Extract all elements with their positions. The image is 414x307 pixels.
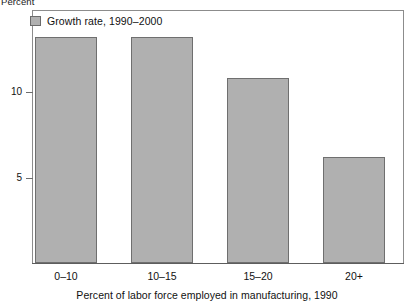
bar-20-plus[interactable]	[323, 157, 385, 263]
x-axis-tick-label-15-20: 15–20	[227, 270, 289, 282]
x-axis-title: Percent of labor force employed in manuf…	[0, 289, 414, 301]
x-axis-tick-label-10-15: 10–15	[131, 270, 193, 282]
x-axis-tick-label-20-plus: 20+	[323, 270, 385, 282]
bar-15-20[interactable]	[227, 78, 289, 263]
x-axis-baseline	[32, 263, 404, 264]
y-axis-unit-label: Percent	[1, 0, 34, 7]
bar-chart-figure: Percent Growth rate, 1990–2000 10 5 0–10…	[0, 0, 414, 307]
chart-legend: Growth rate, 1990–2000	[30, 15, 162, 27]
bar-10-15[interactable]	[131, 37, 193, 263]
y-axis-tick-label-10: 10	[11, 86, 22, 97]
y-axis-tick-10	[26, 92, 33, 93]
bar-0-10[interactable]	[35, 37, 97, 263]
legend-label-growth-rate: Growth rate, 1990–2000	[47, 15, 162, 27]
y-axis-tick-5	[26, 178, 33, 179]
y-axis-tick-label-5: 5	[16, 172, 22, 183]
x-axis-tick-label-0-10: 0–10	[35, 270, 97, 282]
legend-swatch-growth-rate	[30, 16, 41, 26]
